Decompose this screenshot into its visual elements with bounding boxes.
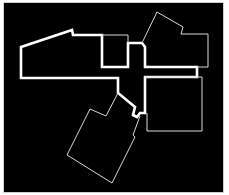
- room-bottom-outline: [67, 93, 140, 183]
- room-right-outline: [145, 77, 202, 131]
- room-top-center-outline: [102, 35, 128, 43]
- room-top-right-outline: [142, 12, 208, 67]
- main-corridor-outline: [21, 30, 197, 117]
- floor-plan-diagram: [0, 0, 229, 195]
